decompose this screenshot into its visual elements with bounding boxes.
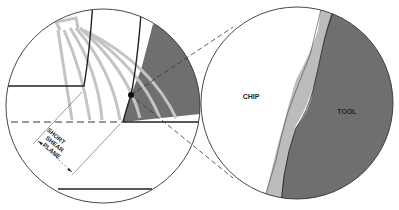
- right-circle-view: [200, 0, 399, 210]
- tool-label: TOOL: [337, 108, 357, 115]
- chip-formation-diagram: SHORT SHEAR PLANE CHIP TOOL: [0, 0, 399, 210]
- focal-point-marker: [128, 92, 134, 98]
- left-circle-view: [0, 0, 210, 210]
- chip-label: CHIP: [243, 93, 260, 100]
